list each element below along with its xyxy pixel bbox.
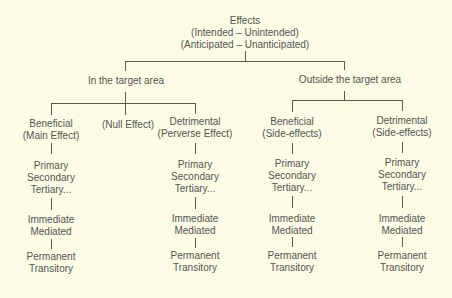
level-item: Secondary <box>378 169 426 181</box>
branch-in-target-area: In the target area <box>88 75 164 87</box>
level-item: Primary <box>27 160 75 172</box>
connector <box>51 239 52 249</box>
connector-outside-target-horizontal <box>292 100 403 101</box>
node-primary-secondary-tertiary: Primary Secondary Tertiary... <box>27 160 75 196</box>
connector <box>402 142 403 153</box>
connector <box>292 143 293 154</box>
level-item: Primary <box>171 159 219 171</box>
level-item: Secondary <box>171 171 219 183</box>
node-immediate-mediated: Immediate Mediated <box>172 213 219 237</box>
connector <box>292 196 293 208</box>
level-item: Transitory <box>171 262 220 274</box>
level-item: Immediate <box>172 213 219 225</box>
level-item: Secondary <box>268 170 316 182</box>
connector-outside-target-stem <box>344 91 345 100</box>
level-item: Primary <box>378 157 426 169</box>
connector-to-perverse-effect <box>195 103 196 114</box>
connector <box>292 237 293 247</box>
connector <box>402 237 403 247</box>
node-primary-secondary-tertiary: Primary Secondary Tertiary... <box>171 159 219 195</box>
level-item: Permanent <box>27 251 76 263</box>
level-item: Transitory <box>27 263 76 275</box>
node-beneficial-main-effect: Beneficial (Main Effect) <box>23 118 80 142</box>
effects-tree-diagram: Effects (Intended – Unintended) (Anticip… <box>0 0 452 298</box>
level-item: Tertiary... <box>378 181 426 193</box>
connector-in-target-horizontal <box>51 103 196 104</box>
node-primary-secondary-tertiary: Primary Secondary Tertiary... <box>378 157 426 193</box>
node-subtitle: (Side-effects) <box>262 128 321 140</box>
level-item: Immediate <box>379 213 426 225</box>
node-permanent-transitory: Permanent Transitory <box>268 250 317 274</box>
node-permanent-transitory: Permanent Transitory <box>27 251 76 275</box>
node-subtitle: (Main Effect) <box>23 130 80 142</box>
node-permanent-transitory: Permanent Transitory <box>378 250 427 274</box>
level-item: Mediated <box>28 226 75 238</box>
connector-to-outside-target <box>344 61 345 70</box>
level-item: Transitory <box>378 262 427 274</box>
node-permanent-transitory: Permanent Transitory <box>171 250 220 274</box>
node-beneficial-side-effects: Beneficial (Side-effects) <box>262 116 321 140</box>
connector-to-beneficial-side <box>292 100 293 112</box>
connector <box>51 198 52 210</box>
node-title: Beneficial <box>23 118 80 130</box>
root-title: Effects <box>181 15 309 27</box>
root-subtitle-intended: (Intended – Unintended) <box>181 27 309 39</box>
branch-label: Outside the target area <box>299 74 401 86</box>
node-title: Detrimental <box>158 116 233 128</box>
level-item: Tertiary... <box>171 183 219 195</box>
level-item: Mediated <box>269 225 316 237</box>
branch-label: In the target area <box>88 75 164 87</box>
connector <box>51 143 52 154</box>
root-node-effects: Effects (Intended – Unintended) (Anticip… <box>181 15 309 51</box>
node-title: Beneficial <box>262 116 321 128</box>
level-item: Mediated <box>172 225 219 237</box>
node-null-effect: (Null Effect) <box>102 119 154 131</box>
node-subtitle: (Perverse Effect) <box>158 128 233 140</box>
node-title: Detrimental <box>372 115 431 127</box>
connector-root-stem <box>245 51 246 61</box>
level-item: Tertiary... <box>27 184 75 196</box>
level-item: Immediate <box>28 214 75 226</box>
connector-root-horizontal <box>125 61 345 62</box>
level-item: Secondary <box>27 172 75 184</box>
level-item: Permanent <box>171 250 220 262</box>
level-item: Immediate <box>269 213 316 225</box>
connector <box>195 238 196 248</box>
connector-to-in-target <box>125 61 126 71</box>
connector-to-main-effect <box>51 103 52 115</box>
node-detrimental-perverse-effect: Detrimental (Perverse Effect) <box>158 116 233 140</box>
root-subtitle-anticipated: (Anticipated – Unanticipated) <box>181 39 309 51</box>
connector <box>195 143 196 154</box>
node-primary-secondary-tertiary: Primary Secondary Tertiary... <box>268 158 316 194</box>
node-title: (Null Effect) <box>102 119 154 131</box>
node-subtitle: (Side-effects) <box>372 127 431 139</box>
level-item: Permanent <box>268 250 317 262</box>
node-immediate-mediated: Immediate Mediated <box>28 214 75 238</box>
connector <box>402 196 403 208</box>
branch-outside-target-area: Outside the target area <box>299 74 401 86</box>
level-item: Transitory <box>268 262 317 274</box>
level-item: Mediated <box>379 225 426 237</box>
level-item: Tertiary... <box>268 182 316 194</box>
connector-to-detrimental-side <box>402 100 403 111</box>
level-item: Permanent <box>378 250 427 262</box>
node-detrimental-side-effects: Detrimental (Side-effects) <box>372 115 431 139</box>
connector <box>195 197 196 209</box>
node-immediate-mediated: Immediate Mediated <box>379 213 426 237</box>
node-immediate-mediated: Immediate Mediated <box>269 213 316 237</box>
level-item: Primary <box>268 158 316 170</box>
